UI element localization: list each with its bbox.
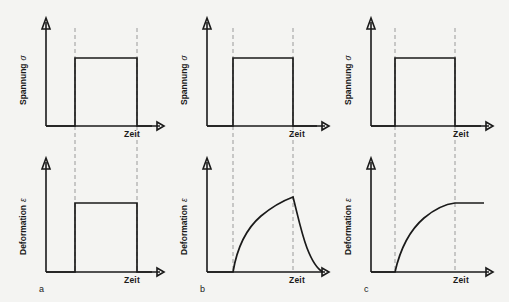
- panel-a-svg: Spannungσ Zeit Deformationε Zeit a: [0, 0, 175, 302]
- strain-plot-b: Deformationε Zeit: [179, 158, 329, 285]
- stress-axis-label-c: Spannungσ: [343, 54, 353, 105]
- strain-axis-label-b: Deformationε: [179, 198, 189, 255]
- stress-plot-a: Spannungσ Zeit: [18, 18, 164, 139]
- stress-axis-label-b: Spannungσ: [179, 54, 189, 105]
- strain-time-label-a: Zeit: [124, 275, 140, 285]
- panel-a: Spannungσ Zeit Deformationε Zeit a: [0, 0, 175, 302]
- stress-time-label-b: Zeit: [289, 129, 305, 139]
- strain-plot-a: Deformationε Zeit: [18, 158, 164, 285]
- panel-c-svg: Spannungσ Zeit Deformationε Zeit c: [334, 0, 509, 302]
- stress-time-label-c: Zeit: [453, 129, 469, 139]
- panel-b-svg: Spannungσ Zeit Deformationε Zeit b: [167, 0, 342, 302]
- strain-axis-label-a: Deformationε: [18, 198, 28, 255]
- panel-c: Spannungσ Zeit Deformationε Zeit c: [334, 0, 509, 302]
- strain-time-label-c: Zeit: [453, 275, 469, 285]
- stress-plot-b: Spannungσ Zeit: [179, 18, 329, 139]
- strain-time-label-b: Zeit: [289, 275, 305, 285]
- panel-label-c: c: [364, 284, 369, 294]
- stress-axis-label-a: Spannungσ: [18, 54, 28, 105]
- stress-curve-a: [46, 58, 152, 126]
- strain-plot-c: Deformationε Zeit: [343, 158, 493, 285]
- strain-curve-b: [207, 197, 323, 272]
- strain-curve-a: [46, 203, 152, 272]
- strain-axis-label-c: Deformationε: [343, 198, 353, 255]
- panel-label-a: a: [39, 284, 44, 294]
- stress-plot-c: Spannungσ Zeit: [343, 18, 493, 139]
- panel-b: Spannungσ Zeit Deformationε Zeit b: [167, 0, 342, 302]
- stress-time-label-a: Zeit: [124, 129, 140, 139]
- strain-curve-c: [371, 203, 484, 272]
- stress-curve-c: [371, 58, 481, 126]
- panel-label-b: b: [200, 284, 205, 294]
- stress-curve-b: [207, 58, 317, 126]
- figure-canvas: Spannungσ Zeit Deformationε Zeit a: [0, 0, 509, 302]
